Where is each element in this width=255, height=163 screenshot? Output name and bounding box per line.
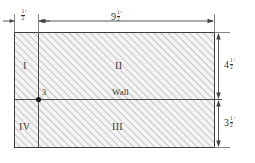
- region-label-i: I: [23, 61, 27, 71]
- wall-label: Wall: [112, 88, 129, 97]
- dim-unit-2: ′: [234, 57, 235, 64]
- dim-whole-2: 4: [224, 59, 229, 70]
- dim-denominator-2: 2: [230, 64, 234, 71]
- vertex-node-label: 3: [42, 88, 46, 97]
- region-label-iv: IV: [19, 122, 30, 132]
- region-label-ii: II: [115, 61, 122, 71]
- dim-fraction-2: 1 2: [230, 58, 234, 70]
- dimension-left-strip-width: 1 2 ′: [21, 9, 26, 22]
- dim-whole-1: 9: [111, 11, 116, 22]
- dim-whole-3: 3: [224, 117, 229, 128]
- arrow-main-width-right: [208, 19, 215, 24]
- arrow-half-foot-left: [10, 19, 15, 23]
- dim-unit-1: ′: [121, 9, 122, 16]
- arrow-lower-height-bottom: [216, 141, 221, 148]
- region-label-iii: III: [112, 122, 123, 132]
- arrow-lower-height-top: [216, 100, 221, 107]
- dim-denominator-3: 2: [230, 122, 234, 129]
- dim-fraction-1: 1 2: [117, 10, 121, 22]
- floor-plan-diagram: I II III IV Wall 3 1 2 ′ 9 1 2 ′ 4 1 2 ′…: [0, 0, 255, 163]
- dim-unit-3: ′: [234, 115, 235, 122]
- dimension-main-width: 9 1 2 ′: [111, 10, 122, 22]
- dim-fraction-0: 1 2: [21, 9, 25, 22]
- diagram-canvas: [0, 0, 255, 163]
- vertex-node-dot: [36, 97, 41, 102]
- dimension-lower-height: 3 1 2 ′: [224, 116, 235, 128]
- dim-denominator-1: 2: [117, 16, 121, 23]
- dim-unit-0: ′: [25, 8, 26, 15]
- dimension-upper-height: 4 1 2 ′: [224, 58, 235, 70]
- arrow-upper-height-top: [216, 33, 221, 40]
- arrow-main-width-left: [39, 19, 46, 24]
- arrow-upper-height-bottom: [216, 93, 221, 100]
- dim-fraction-3: 1 2: [230, 116, 234, 128]
- dim-denominator-0: 2: [21, 15, 25, 22]
